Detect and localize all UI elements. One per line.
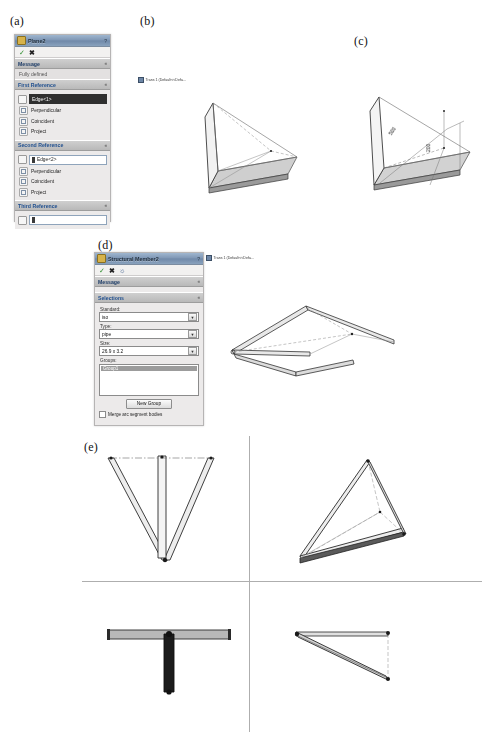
viewport-divider-vertical <box>249 436 250 732</box>
reference-entity-icon <box>18 216 27 225</box>
member-panel-help-button[interactable]: ? <box>197 256 201 262</box>
first-reference-value: Edge<1> <box>32 97 51 102</box>
check-icon[interactable]: ✓ <box>99 267 105 274</box>
chevron-icon[interactable]: « <box>197 279 200 284</box>
reference-entity-icon <box>18 155 27 164</box>
geometry-view-e-front <box>96 448 226 573</box>
section-label-third-reference: Third Reference <box>18 203 58 209</box>
project-icon <box>19 127 28 136</box>
part-icon <box>138 77 144 83</box>
third-reference-selection-row[interactable] <box>18 215 107 225</box>
section-header-first-reference[interactable]: First Reference « <box>15 79 110 90</box>
chevron-icon[interactable]: « <box>197 295 200 300</box>
viewport-divider-horizontal <box>82 581 482 582</box>
section-header-message[interactable]: Message « <box>95 276 203 287</box>
cross-icon[interactable]: ✖ <box>109 267 115 274</box>
plane-panel-titlebar[interactable]: Plane2 ? <box>15 35 110 47</box>
groups-label: Groups: <box>100 358 199 363</box>
cross-icon[interactable]: ✖ <box>29 49 35 56</box>
dimension-label-200: 200 <box>425 144 431 152</box>
section-label-selections: Selections <box>98 295 124 301</box>
merge-arc-segment-checkbox-row[interactable]: Merge arc segment bodies <box>99 411 199 418</box>
second-reference-selection-row[interactable]: Edge<2> <box>18 155 107 165</box>
geometry-view-e-side <box>290 620 420 700</box>
section-header-selections[interactable]: Selections « <box>95 292 203 303</box>
viewport-b-tree-label[interactable]: Trans 1 (Default<<Defa... <box>138 77 186 83</box>
member-panel-titlebar[interactable]: Structural Member2 ? <box>95 253 203 265</box>
structural-member-property-panel[interactable]: Structural Member2 ? ✓ ✖ ☼ Message « Sel… <box>94 252 204 426</box>
first-ref-option-coincident[interactable]: Coincident <box>19 117 107 126</box>
project-icon <box>19 188 28 197</box>
viewport-d-tree-text: Trans 1 (Default<<Defa... <box>214 256 254 260</box>
plane-panel-title: Plane2 <box>28 38 104 44</box>
reference-entity-icon <box>18 95 27 104</box>
option-label: Perpendicular <box>31 108 61 113</box>
third-reference-field[interactable] <box>29 215 107 225</box>
geometry-view-d <box>222 300 407 385</box>
size-label: Size: <box>100 341 199 346</box>
merge-arc-segment-label: Merge arc segment bodies <box>108 412 162 417</box>
group-list-item[interactable]: Group1 <box>101 366 197 371</box>
perpendicular-icon <box>19 167 28 176</box>
type-dropdown[interactable]: pipe ▼ <box>99 329 199 339</box>
perpendicular-icon <box>19 106 28 115</box>
plane-panel-help-button[interactable]: ? <box>104 38 108 44</box>
second-ref-option-perpendicular[interactable]: Perpendicular <box>19 167 107 176</box>
second-ref-option-coincident[interactable]: Coincident <box>19 177 107 186</box>
viewport-d-tree-label[interactable]: Trans 1 (Default<<Defa... <box>206 255 254 261</box>
chevron-down-icon[interactable]: ▼ <box>188 313 197 321</box>
chevron-icon[interactable]: « <box>104 82 107 87</box>
panel-label-a: (a) <box>10 14 24 29</box>
section-header-second-reference[interactable]: Second Reference « <box>15 140 110 151</box>
plane-icon <box>17 36 26 45</box>
coincident-icon <box>19 177 28 186</box>
option-label: Project <box>31 129 46 134</box>
option-label: Coincident <box>31 119 54 124</box>
section-header-third-reference[interactable]: Third Reference « <box>15 200 110 211</box>
option-label: Perpendicular <box>31 169 61 174</box>
plane-panel-toolbar[interactable]: ✓ ✖ <box>15 47 110 58</box>
type-label: Type: <box>100 324 199 329</box>
check-icon[interactable]: ✓ <box>19 49 25 56</box>
entity-color-swatch <box>32 217 35 223</box>
panel-label-c: (c) <box>354 34 368 49</box>
first-reference-field[interactable]: Edge<1> <box>29 94 107 104</box>
panel-label-d: (d) <box>98 238 113 253</box>
chevron-icon[interactable]: « <box>104 143 107 148</box>
chevron-icon[interactable]: « <box>104 203 107 208</box>
geometry-view-b <box>185 95 300 200</box>
second-reference-field[interactable]: Edge<2> <box>29 155 107 165</box>
merge-arc-segment-checkbox[interactable] <box>99 411 106 418</box>
size-value: 26.9 x 3.2 <box>102 349 123 354</box>
second-ref-option-project[interactable]: Project <box>19 188 107 197</box>
chevron-icon[interactable]: « <box>104 61 107 66</box>
entity-color-swatch <box>32 157 35 163</box>
plane-property-panel[interactable]: Plane2 ? ✓ ✖ Message « Fully defined Fir… <box>14 34 111 222</box>
member-panel-toolbar[interactable]: ✓ ✖ ☼ <box>95 265 203 276</box>
chevron-down-icon[interactable]: ▼ <box>188 330 197 338</box>
viewport-b-tree-text: Trans 1 (Default<<Defa... <box>146 78 186 82</box>
section-header-message[interactable]: Message « <box>15 58 110 69</box>
standard-value: iso <box>102 315 108 320</box>
section-label-second-reference: Second Reference <box>18 142 63 148</box>
first-ref-option-project[interactable]: Project <box>19 127 107 136</box>
preview-icon[interactable]: ☼ <box>119 267 125 274</box>
section-label-message: Message <box>98 279 120 285</box>
chevron-down-icon[interactable]: ▼ <box>188 347 197 355</box>
panel-label-b: (b) <box>140 14 155 29</box>
second-reference-value: Edge<2> <box>37 157 56 162</box>
member-panel-title: Structural Member2 <box>108 256 197 262</box>
geometry-view-e-iso <box>292 448 452 573</box>
first-ref-option-perpendicular[interactable]: Perpendicular <box>19 106 107 115</box>
first-reference-selection-row[interactable]: Edge<1> <box>18 94 107 104</box>
plane-panel-message-text: Fully defined <box>15 69 110 79</box>
section-label-first-reference: First Reference <box>18 82 56 88</box>
type-value: pipe <box>102 332 111 337</box>
standard-dropdown[interactable]: iso ▼ <box>99 312 199 322</box>
size-dropdown[interactable]: 26.9 x 3.2 ▼ <box>99 346 199 356</box>
new-group-button[interactable]: New Group <box>126 399 172 409</box>
option-label: Coincident <box>31 179 54 184</box>
geometry-view-e-top <box>104 620 234 700</box>
section-label-message: Message <box>18 61 40 67</box>
groups-listbox[interactable]: Group1 <box>99 364 199 396</box>
